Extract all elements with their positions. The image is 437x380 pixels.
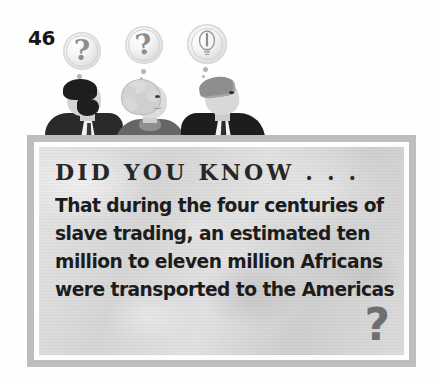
body-line: slave trading, an estimated ten (55, 220, 373, 248)
lightbulb-icon (197, 29, 217, 57)
did-you-know-content: DID YOU KNOW . . . That during the four … (39, 147, 404, 304)
body-line: million to eleven million Africans (55, 248, 373, 276)
eye (155, 95, 160, 98)
question-mark-thought-bubble: ? (125, 26, 163, 64)
eye (229, 91, 234, 94)
illustration-three-people-thinking: ? ? (45, 24, 265, 149)
body-line: That during the four centuries of (55, 192, 373, 220)
large-question-mark-icon: ? (364, 307, 390, 343)
did-you-know-box-inner: DID YOU KNOW . . . That during the four … (34, 142, 409, 360)
beard (77, 99, 99, 116)
thought-trail-dot (141, 69, 146, 74)
question-mark-icon: ? (125, 26, 163, 64)
did-you-know-box: DID YOU KNOW . . . That during the four … (27, 135, 416, 367)
page-canvas: 46 ? ? (0, 0, 437, 380)
lightbulb-thought-bubble (187, 24, 227, 64)
did-you-know-heading: DID YOU KNOW . . . (55, 161, 388, 183)
body-line: were transported to the Americas (55, 276, 373, 304)
question-mark-thought-bubble: ? (63, 32, 101, 70)
mouth (153, 104, 162, 109)
did-you-know-body: That during the four centuries of slave … (55, 192, 373, 304)
eye (90, 94, 95, 97)
question-mark-icon: ? (63, 32, 101, 70)
thought-trail-dot (203, 67, 208, 72)
